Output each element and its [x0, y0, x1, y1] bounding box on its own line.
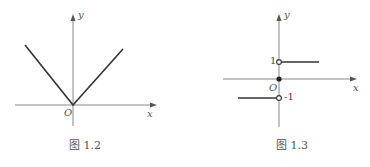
closed-point-origin: [276, 76, 281, 81]
diagram-canvas: [0, 0, 370, 167]
y-axis-label: y: [284, 9, 290, 20]
abs-curve: [25, 45, 123, 105]
y-axis-arrow-icon: [71, 14, 76, 21]
open-point-lower: [277, 96, 282, 101]
x-axis-label: x: [353, 82, 359, 93]
origin-label: O: [64, 107, 72, 118]
x-axis-arrow-icon: [150, 103, 157, 108]
figure-caption: 图 1.2: [69, 136, 101, 152]
origin-label: O: [269, 82, 277, 93]
y-axis-arrow-icon: [277, 14, 282, 21]
figure-caption: 图 1.3: [276, 136, 308, 152]
x-axis-label: x: [147, 108, 153, 119]
tick-label-1: 1: [270, 55, 276, 66]
figure-1-3: [223, 14, 357, 127]
figure-1-2: [15, 14, 157, 126]
y-axis-label: y: [78, 9, 84, 20]
tick-label-neg1: -1: [284, 91, 294, 102]
x-axis-arrow-icon: [350, 77, 357, 82]
open-point-upper: [277, 60, 282, 65]
